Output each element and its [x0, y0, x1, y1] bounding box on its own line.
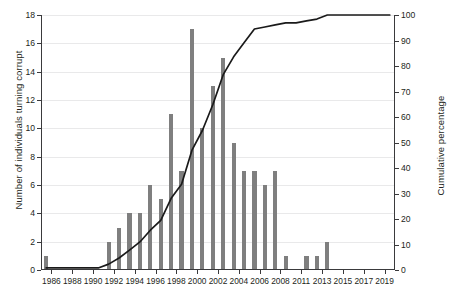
x-axis-tick-label: 1998: [167, 276, 186, 286]
x-axis-tick: [218, 270, 219, 274]
y-axis-left-tick-label: 18: [25, 10, 35, 20]
y-axis-right-title: Cumulative percentage: [435, 81, 446, 211]
x-axis-tick: [385, 270, 386, 274]
x-axis-tick-label: 2019: [375, 276, 394, 286]
y-axis-right-tick-label: 0: [401, 265, 406, 275]
y-axis-right-tick: [395, 194, 399, 195]
y-axis-right-tick: [395, 117, 399, 118]
y-axis-right-tick: [395, 219, 399, 220]
x-axis-tick-label: 1996: [146, 276, 165, 286]
y-axis-right-tick: [395, 270, 399, 271]
x-axis-tick-label: 1990: [84, 276, 103, 286]
x-axis-tick: [51, 270, 52, 274]
y-axis-right-tick-label: 70: [401, 87, 411, 97]
y-axis-left-line: [41, 15, 42, 270]
y-axis-left-tick-label: 0: [30, 265, 35, 275]
y-axis-left-tick: [37, 43, 41, 44]
y-axis-left-tick: [37, 157, 41, 158]
y-axis-right-tick-label: 10: [401, 240, 411, 250]
y-axis-left-tick: [37, 15, 41, 16]
y-axis-right-tick: [395, 66, 399, 67]
y-axis-left-title: Number of individuals turning corrupt: [13, 80, 24, 210]
x-axis-tick-label: 2002: [209, 276, 228, 286]
y-axis-left-tick-label: 2: [30, 237, 35, 247]
x-axis-tick: [135, 270, 136, 274]
y-axis-right-tick-label: 50: [401, 138, 411, 148]
y-axis-left-tick-label: 14: [25, 67, 35, 77]
x-axis-tick: [322, 270, 323, 274]
x-axis-tick: [176, 270, 177, 274]
y-axis-right-tick: [395, 245, 399, 246]
x-axis-tick: [93, 270, 94, 274]
x-axis-tick-label: 1992: [105, 276, 124, 286]
cumulative-line-series: [41, 15, 395, 270]
x-axis-tick-label: 1988: [63, 276, 82, 286]
x-axis-tick-label: 2017: [354, 276, 373, 286]
y-axis-right-tick-label: 80: [401, 61, 411, 71]
y-axis-right-tick-label: 100: [401, 10, 415, 20]
x-axis-tick: [343, 270, 344, 274]
y-axis-right-tick-label: 60: [401, 112, 411, 122]
x-axis-tick-label: 2000: [188, 276, 207, 286]
x-axis-tick: [239, 270, 240, 274]
x-axis-tick-label: 2013: [313, 276, 332, 286]
y-axis-right-tick-label: 20: [401, 214, 411, 224]
y-axis-right-tick-label: 40: [401, 163, 411, 173]
y-axis-left-tick-label: 4: [30, 208, 35, 218]
y-axis-left-tick: [37, 128, 41, 129]
x-axis-tick-label: 2004: [229, 276, 248, 286]
y-axis-right-tick: [395, 92, 399, 93]
x-axis-tick: [260, 270, 261, 274]
plot-area: 024681012141618 0102030405060708090100 1…: [41, 15, 395, 270]
y-axis-left-tick-label: 8: [30, 152, 35, 162]
y-axis-left-tick-label: 10: [25, 123, 35, 133]
plot-frame: 024681012141618 0102030405060708090100 1…: [41, 15, 395, 270]
x-axis-tick-label: 1994: [125, 276, 144, 286]
y-axis-left-tick-label: 6: [30, 180, 35, 190]
y-axis-right-tick: [395, 15, 399, 16]
y-axis-left-tick-label: 16: [25, 38, 35, 48]
y-axis-left-tick-label: 12: [25, 95, 35, 105]
y-axis-right-tick: [395, 168, 399, 169]
x-axis-tick-label: 2011: [292, 276, 310, 286]
x-axis-tick: [114, 270, 115, 274]
y-axis-left-tick: [37, 72, 41, 73]
cumulative-line-path: [46, 15, 390, 268]
y-axis-right-tick: [395, 41, 399, 42]
y-axis-left-tick: [37, 270, 41, 271]
x-axis-tick: [364, 270, 365, 274]
y-axis-left-tick: [37, 185, 41, 186]
x-axis-tick: [156, 270, 157, 274]
y-axis-right-tick-label: 90: [401, 36, 411, 46]
y-axis-right-tick: [395, 143, 399, 144]
x-axis-tick-label: 2015: [334, 276, 353, 286]
y-axis-left-tick: [37, 213, 41, 214]
x-axis-tick: [301, 270, 302, 274]
y-axis-right-tick-label: 30: [401, 189, 411, 199]
x-axis-tick-label: 2006: [250, 276, 269, 286]
x-axis-tick: [280, 270, 281, 274]
y-axis-left-tick: [37, 242, 41, 243]
x-axis-tick-label: 2008: [271, 276, 290, 286]
x-axis-tick: [72, 270, 73, 274]
y-axis-left-tick: [37, 100, 41, 101]
chart-container: Number of individuals turning corrupt Cu…: [0, 0, 449, 302]
x-axis-tick-label: 1986: [42, 276, 61, 286]
x-axis-tick: [197, 270, 198, 274]
